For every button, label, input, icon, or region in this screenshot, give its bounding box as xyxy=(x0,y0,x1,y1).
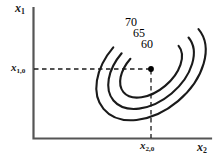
contour-group xyxy=(77,0,219,141)
x-tick-label-text: x xyxy=(140,139,146,151)
optimum-point-marker xyxy=(148,66,154,72)
y-tick-label-text: x xyxy=(11,61,17,73)
y-axis-label-sub: 1 xyxy=(21,7,25,16)
contour-plot-svg xyxy=(0,0,219,159)
figure-canvas: x1 x2 x1,0 x2,0 70 65 60 xyxy=(0,0,219,159)
contour-line-70 xyxy=(77,0,219,141)
x-axis-label: x2 xyxy=(197,141,207,153)
x-axis-tick-label: x2,0 xyxy=(140,140,154,151)
y-tick-label-sub: 1,0 xyxy=(17,67,26,75)
y-axis-label: x1 xyxy=(15,2,25,14)
x-tick-label-sub: 2,0 xyxy=(146,145,155,153)
y-axis-tick-label: x1,0 xyxy=(11,62,25,73)
x-axis-label-sub: 2 xyxy=(203,146,207,155)
projection-lines xyxy=(34,69,151,138)
contour-label-60: 60 xyxy=(141,38,153,50)
